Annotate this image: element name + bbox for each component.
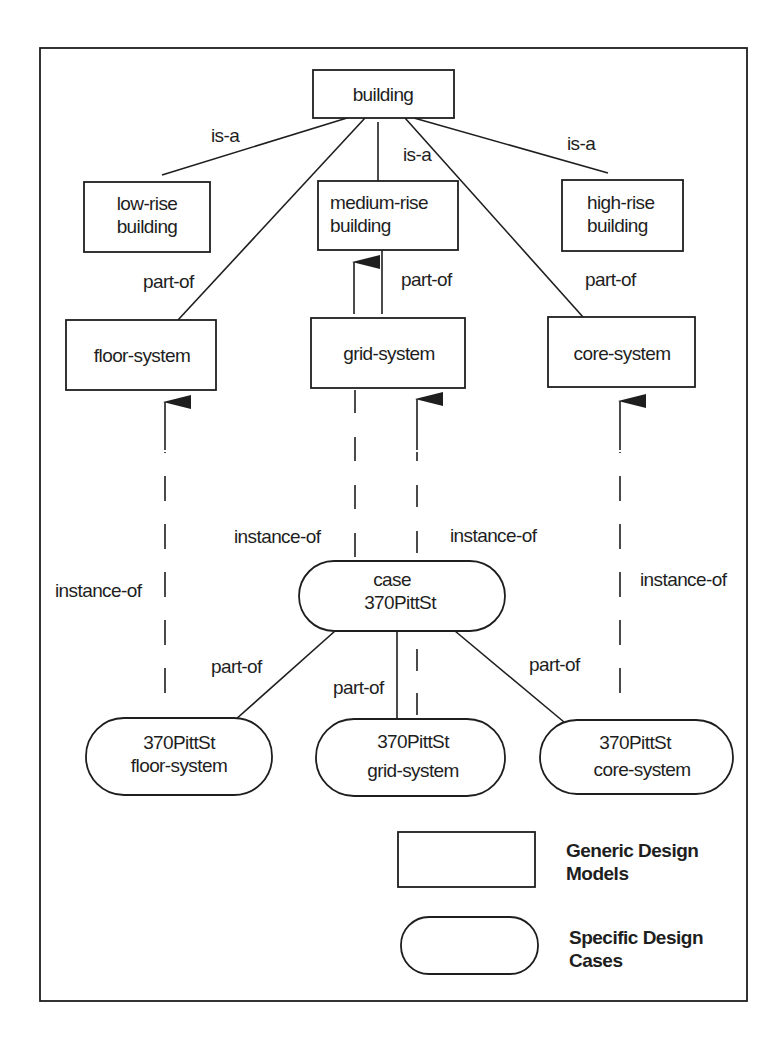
node-grid-system: grid-system (311, 318, 465, 388)
node-floor-case-line2: floor-system (131, 755, 227, 776)
legend-specific-design-cases: Specific Design Cases (401, 917, 703, 974)
node-core-case-line1: 370PittSt (599, 732, 672, 753)
label-isa-high: is-a (567, 133, 596, 154)
label-instanceof-grid: instance-of (450, 525, 538, 546)
node-building-label: building (353, 84, 414, 105)
node-medium-rise-line2: building (330, 215, 391, 236)
label-isa-low: is-a (211, 125, 240, 146)
legend-generic-line1: Generic Design (566, 840, 698, 861)
node-case-370pittst: case 370PittSt (299, 561, 505, 631)
node-medium-rise-building: medium-rise building (318, 181, 458, 250)
label-partof-floor: part-of (143, 271, 195, 292)
node-370pittst-grid-system: 370PittSt grid-system (316, 719, 505, 796)
node-floor-case-line1: 370PittSt (143, 732, 216, 753)
label-case-partof-grid: part-of (333, 677, 385, 698)
legend: Generic Design Models Specific Design Ca… (398, 832, 703, 974)
legend-specific-line1: Specific Design (569, 927, 703, 948)
node-370pittst-floor-system: 370PittSt floor-system (86, 718, 272, 795)
node-case-line2: 370PittSt (364, 592, 437, 613)
node-low-rise-building: low-rise building (84, 182, 210, 252)
node-high-rise-line2: building (587, 215, 648, 236)
label-case-partof-floor: part-of (211, 656, 263, 677)
node-grid-system-label: grid-system (343, 343, 435, 364)
node-high-rise-line1: high-rise (587, 192, 654, 213)
node-case-line1: case (373, 569, 411, 590)
node-core-case-line2: core-system (594, 759, 691, 780)
label-isa-medium: is-a (403, 144, 432, 165)
label-instanceof-core: instance-of (640, 569, 728, 590)
node-building: building (313, 70, 454, 118)
node-medium-rise-line1: medium-rise (330, 192, 428, 213)
node-floor-system-label: floor-system (94, 345, 190, 366)
design-model-diagram: building low-rise building medium-rise b… (0, 0, 780, 1037)
node-core-system-label: core-system (574, 343, 671, 364)
label-case-partof-core: part-of (529, 654, 581, 675)
legend-generic-line2: Models (566, 863, 628, 884)
node-floor-system: floor-system (66, 320, 216, 390)
node-370pittst-core-system: 370PittSt core-system (540, 720, 733, 794)
node-low-rise-line1: low-rise (117, 193, 178, 214)
legend-specific-line2: Cases (569, 950, 623, 971)
edges-from-case (235, 631, 564, 722)
node-grid-case-line1: 370PittSt (377, 731, 450, 752)
node-grid-case-line2: grid-system (367, 760, 459, 781)
node-high-rise-building: high-rise building (562, 180, 683, 251)
node-core-system: core-system (548, 317, 695, 387)
label-instanceof-case: instance-of (234, 526, 322, 547)
legend-rect-swatch (398, 832, 535, 887)
case-partof-core (455, 631, 564, 722)
legend-generic-design-models: Generic Design Models (398, 832, 698, 887)
legend-pill-swatch (401, 917, 538, 974)
label-partof-core: part-of (585, 269, 637, 290)
label-partof-grid: part-of (401, 269, 453, 290)
label-instanceof-floor: instance-of (55, 580, 143, 601)
node-low-rise-line2: building (117, 216, 178, 237)
